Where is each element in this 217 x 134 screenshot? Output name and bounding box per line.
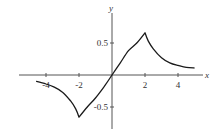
- x-tick-label: 4: [176, 80, 181, 90]
- y-tick-label: 0.5: [97, 38, 109, 48]
- x-tick-label: -2: [75, 80, 83, 90]
- y-axis-label: y: [108, 3, 113, 13]
- chart: x y -4-2240.5-0.5: [0, 0, 217, 134]
- y-tick-label: -0.5: [94, 102, 109, 112]
- x-axis-label: x: [204, 70, 209, 80]
- x-tick-label: 2: [143, 80, 148, 90]
